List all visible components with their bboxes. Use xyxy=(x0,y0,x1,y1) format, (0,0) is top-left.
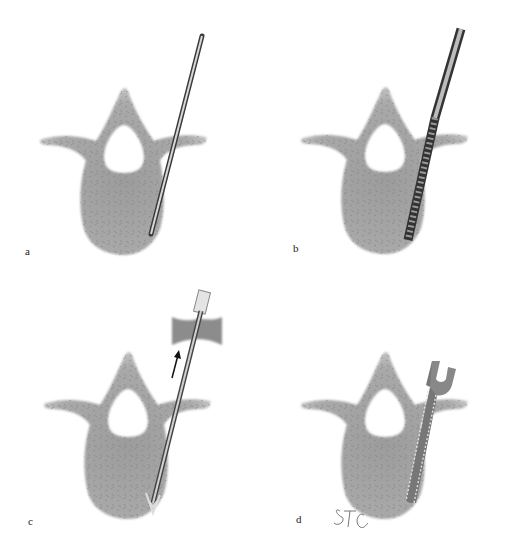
panel-c: c xyxy=(0,275,260,549)
arrow-up-icon xyxy=(172,350,181,378)
panel-a: a xyxy=(0,0,260,275)
vertebra-illustration xyxy=(0,0,260,275)
panel-label-b: b xyxy=(293,242,299,254)
panel-d: d xyxy=(260,275,519,549)
vertebra-illustration xyxy=(260,0,519,275)
panel-label-a: a xyxy=(25,245,30,257)
panel-label-d: d xyxy=(296,513,302,525)
guide-pin-icon xyxy=(151,36,202,234)
panel-b: b xyxy=(260,0,519,275)
vertebra-illustration xyxy=(0,275,260,549)
panel-label-c: c xyxy=(28,515,33,527)
vertebra-illustration xyxy=(260,275,519,549)
